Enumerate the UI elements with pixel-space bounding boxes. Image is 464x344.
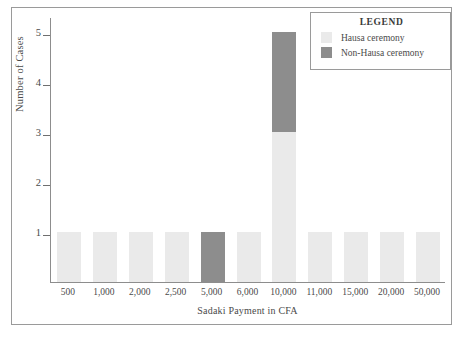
bar-segment-hausa-ceremony[interactable] <box>380 232 404 282</box>
x-tick-label-50000: 50,000 <box>403 287 451 297</box>
legend-item-label: Non-Hausa ceremony <box>341 48 424 58</box>
y-tick-4: 4 <box>36 76 50 90</box>
y-tick-dash <box>43 85 50 86</box>
bar-segment-hausa-ceremony[interactable] <box>93 232 117 282</box>
y-tick-2: 2 <box>36 176 50 190</box>
y-tick-dash <box>43 35 50 36</box>
x-axis-title: Sadaki Payment in CFA <box>50 305 445 316</box>
legend-box: LEGEND Hausa ceremonyNon-Hausa ceremony <box>310 12 451 70</box>
y-tick-dash <box>43 235 50 236</box>
y-axis-ticks: 12345 <box>0 18 50 283</box>
y-tick-label: 2 <box>36 178 41 189</box>
y-tick-dash <box>43 135 50 136</box>
x-axis-ticks: 5001,0002,0002,5005,0006,00010,00011,000… <box>50 287 445 303</box>
y-tick-5: 5 <box>36 26 50 40</box>
y-tick-dash <box>43 185 50 186</box>
chart-figure: Number of Cases 12345 5001,0002,0002,500… <box>0 0 464 344</box>
legend-item-label: Hausa ceremony <box>341 33 405 43</box>
y-tick-label: 4 <box>36 78 41 89</box>
bar-segment-non-hausa-ceremony[interactable] <box>201 232 225 282</box>
bar-segment-hausa-ceremony[interactable] <box>165 232 189 282</box>
bar-segment-non-hausa-ceremony[interactable] <box>272 32 296 132</box>
bar-segment-hausa-ceremony[interactable] <box>344 232 368 282</box>
bar-segment-hausa-ceremony[interactable] <box>129 232 153 282</box>
y-tick-1: 1 <box>36 226 50 240</box>
legend-title: LEGEND <box>319 17 444 27</box>
bar-segment-hausa-ceremony[interactable] <box>308 232 332 282</box>
legend-item-hausa-ceremony[interactable]: Hausa ceremony <box>321 32 444 43</box>
y-tick-label: 3 <box>36 128 41 139</box>
legend-entries: Hausa ceremonyNon-Hausa ceremony <box>319 32 444 58</box>
legend-item-non-hausa-ceremony[interactable]: Non-Hausa ceremony <box>321 47 444 58</box>
legend-swatch-icon <box>321 32 332 43</box>
bar-segment-hausa-ceremony[interactable] <box>416 232 440 282</box>
legend-swatch-icon <box>321 47 332 58</box>
y-tick-label: 1 <box>36 228 41 239</box>
bar-segment-hausa-ceremony[interactable] <box>272 132 296 282</box>
bar-segment-hausa-ceremony[interactable] <box>57 232 81 282</box>
y-tick-label: 5 <box>36 28 41 39</box>
y-tick-3: 3 <box>36 126 50 140</box>
bar-segment-hausa-ceremony[interactable] <box>237 232 261 282</box>
